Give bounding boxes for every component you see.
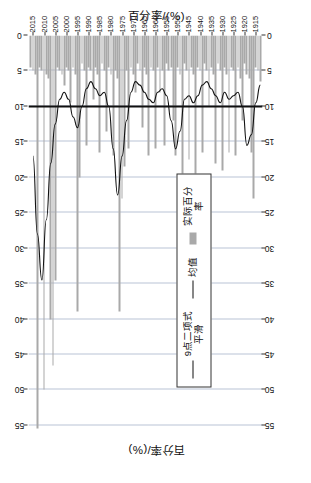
value-tick-mark [23,424,27,425]
year-tick-label: 1965 [139,15,148,32]
value-tick-label: 45 [264,349,273,359]
year-tick-mark [144,31,145,35]
year-tick-mark [177,31,178,35]
year-tick-mark [110,31,111,35]
value-tick-label: 35 [264,278,273,288]
value-tick-mark [23,176,27,177]
value-tick-label: 20 [14,172,23,182]
value-tick-label: 15 [264,136,273,146]
year-tick-label: 1925 [229,15,238,32]
year-tick-label: 1970 [128,15,137,32]
year-tick-label: 1995 [73,15,82,32]
value-tick-mark [261,388,265,389]
value-tick-label: 0 [17,30,22,40]
year-tick-label: 1980 [106,15,115,32]
value-tick-mark [23,140,27,141]
value-tick-label: 55 [264,420,273,430]
value-tick-label: 15 [14,136,23,146]
value-tick-label: 30 [14,243,23,253]
value-tick-mark [23,211,27,212]
value-tick-label: 40 [264,314,273,324]
year-tick-label: 1915 [251,15,260,32]
value-tick-mark [261,318,265,319]
value-tick-mark [261,353,265,354]
value-tick-label: 5 [17,65,22,75]
smoothed-curve [28,35,262,439]
year-tick-mark [244,31,245,35]
value-tick-label: 35 [14,278,23,288]
value-tick-mark [261,424,265,425]
value-tick-mark [261,140,265,141]
value-tick-label: 25 [264,207,273,217]
year-tick-label: 1985 [95,15,104,32]
year-tick-label: 1940 [195,15,204,32]
year-tick-label: 1955 [162,15,171,32]
value-axis-ticks-top: 0510152025303540455055 [0,35,26,439]
value-tick-label: 20 [264,172,273,182]
line-swatch-icon [192,360,193,378]
legend-item-mean: 均值 [187,256,198,298]
legend-label-smoothed: 9点二项式平滑 [182,310,204,356]
legend: 9点二项式平滑 均值 实际百分率 [176,173,211,387]
chart-figure: 百分率/(%) 百分率/(%) 0510152025303540455055 0… [0,0,311,483]
year-tick-mark [44,31,45,35]
value-tick-mark [261,211,265,212]
legend-label-mean: 均值 [187,256,198,276]
year-tick-mark [99,31,100,35]
year-tick-label: 1950 [173,15,182,32]
year-tick-label: 2010 [39,15,48,32]
year-tick-label: 2000 [61,15,70,32]
smoothed-curve-path [33,81,260,279]
year-tick-mark [222,31,223,35]
year-tick-label: 2005 [50,15,59,32]
value-tick-label: 5 [267,65,272,75]
value-tick-label: 10 [264,101,273,111]
year-tick-label: 1960 [151,15,160,32]
year-tick-label: 1975 [117,15,126,32]
value-tick-mark [23,105,27,106]
value-tick-mark [23,34,27,35]
value-tick-label: 55 [14,420,23,430]
mean-reference-line [28,105,262,107]
year-tick-label: 2015 [28,15,37,32]
year-tick-mark [211,31,212,35]
year-tick-label: 1935 [206,15,215,32]
value-tick-mark [261,105,265,106]
year-tick-mark [133,31,134,35]
category-axis-years: 1915192019251930193519401945195019551960… [28,1,262,35]
value-tick-label: 45 [14,349,23,359]
value-axis-title-left: 百分率/(%) [127,443,184,459]
year-tick-mark [55,31,56,35]
year-tick-mark [233,31,234,35]
value-tick-label: 50 [14,384,23,394]
mean-line-swatch-icon [192,280,193,298]
value-tick-mark [23,282,27,283]
value-tick-mark [23,318,27,319]
year-tick-mark [66,31,67,35]
legend-item-smoothed: 9点二项式平滑 [182,310,204,378]
year-tick-mark [155,31,156,35]
year-tick-mark [255,31,256,35]
legend-item-actual: 实际百分率 [182,182,204,244]
legend-label-actual: 实际百分率 [182,182,204,228]
value-tick-mark [23,388,27,389]
year-tick-mark [122,31,123,35]
value-tick-mark [261,176,265,177]
value-tick-label: 0 [267,30,272,40]
value-tick-label: 10 [14,101,23,111]
year-tick-mark [77,31,78,35]
bar-swatch-icon [189,232,196,244]
value-tick-label: 30 [264,243,273,253]
value-tick-label: 25 [14,207,23,217]
value-tick-label: 40 [14,314,23,324]
plot-area [28,35,262,439]
year-tick-label: 1930 [217,15,226,32]
value-tick-mark [23,69,27,70]
value-tick-mark [23,353,27,354]
value-tick-mark [23,247,27,248]
value-tick-mark [261,247,265,248]
value-axis-ticks-bottom: 0510152025303540455055 [262,35,288,439]
year-tick-label: 1945 [184,15,193,32]
value-tick-label: 50 [264,384,273,394]
year-tick-mark [166,31,167,35]
